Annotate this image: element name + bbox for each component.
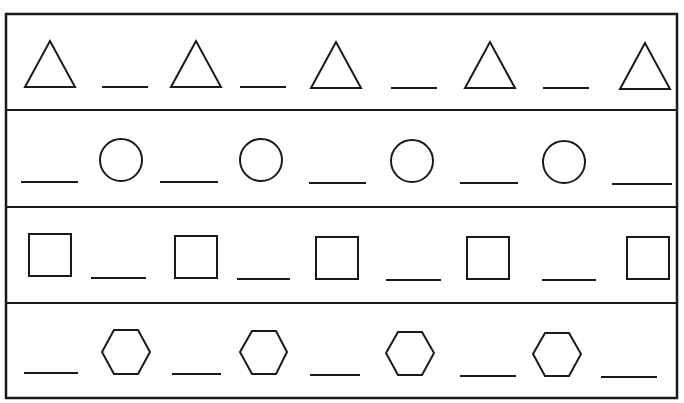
row-triangles xyxy=(25,41,670,89)
circle-icon xyxy=(240,139,282,181)
triangle-icon xyxy=(465,42,515,88)
row-hexagons xyxy=(24,330,657,377)
hexagon-icon xyxy=(102,330,150,374)
square-icon xyxy=(29,234,71,276)
triangle-icon xyxy=(620,43,670,89)
row-squares xyxy=(29,234,669,280)
square-icon xyxy=(175,236,217,278)
hexagon-icon xyxy=(240,331,287,374)
hexagon-icon xyxy=(386,332,434,375)
triangle-icon xyxy=(311,42,361,88)
hexagon-icon xyxy=(533,333,581,376)
triangle-icon xyxy=(171,41,221,87)
square-icon xyxy=(467,237,509,279)
circle-icon xyxy=(391,140,433,182)
triangle-icon xyxy=(25,41,75,87)
square-icon xyxy=(627,237,669,279)
square-icon xyxy=(316,237,358,279)
pattern-worksheet xyxy=(0,0,684,403)
circle-icon xyxy=(100,139,142,181)
circle-icon xyxy=(543,141,585,183)
row-circles xyxy=(21,139,672,184)
